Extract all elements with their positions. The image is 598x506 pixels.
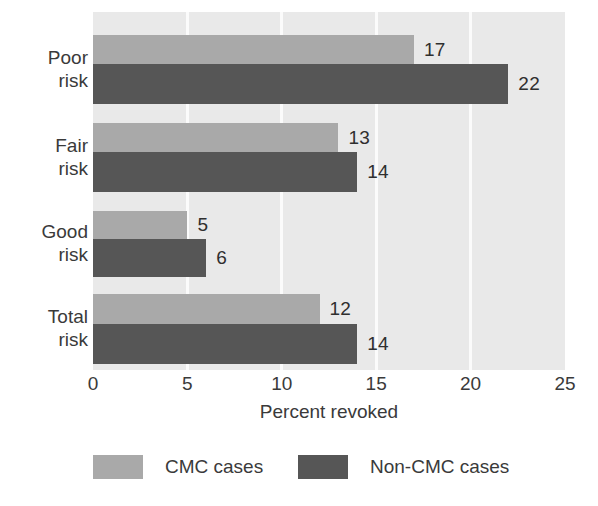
bar-value-label: 13	[348, 127, 370, 149]
bar-value-label: 22	[518, 73, 540, 95]
bar-value-label: 5	[197, 214, 208, 236]
x-axis-title: Percent revoked	[93, 401, 565, 423]
x-tick-label: 15	[366, 373, 387, 395]
bar	[93, 239, 206, 277]
plot-area: 17221314561214	[93, 12, 565, 370]
legend-swatch	[93, 455, 143, 479]
x-tick-label: 20	[460, 373, 481, 395]
bar	[93, 211, 187, 239]
chart-legend: CMC casesNon-CMC cases	[93, 452, 565, 486]
category-label: Total risk	[0, 305, 88, 351]
bar	[93, 294, 320, 324]
legend-item: Non-CMC cases	[298, 452, 509, 482]
x-tick-label: 0	[88, 373, 99, 395]
bar-value-label: 14	[367, 333, 389, 355]
category-label: Good risk	[0, 220, 88, 266]
bar	[93, 64, 508, 104]
legend-label: Non-CMC cases	[370, 456, 509, 478]
legend-item: CMC cases	[93, 452, 263, 482]
bar	[93, 152, 357, 192]
category-label: Fair risk	[0, 134, 88, 180]
bar	[93, 324, 357, 364]
x-axis-ticks: 0510152025	[0, 373, 598, 403]
legend-swatch	[298, 455, 348, 479]
bar-value-label: 17	[424, 39, 446, 61]
bar-chart: Poor riskFair riskGood riskTotal risk 17…	[0, 0, 598, 506]
x-tick-label: 25	[554, 373, 575, 395]
category-axis-labels: Poor riskFair riskGood riskTotal risk	[0, 0, 88, 370]
bar-value-label: 12	[330, 298, 352, 320]
x-tick-label: 5	[182, 373, 193, 395]
category-label: Poor risk	[0, 46, 88, 92]
bar-value-label: 14	[367, 161, 389, 183]
legend-label: CMC cases	[165, 456, 263, 478]
bar	[93, 35, 414, 64]
x-tick-label: 10	[271, 373, 292, 395]
bar-value-label: 6	[216, 247, 227, 269]
bar	[93, 123, 338, 152]
